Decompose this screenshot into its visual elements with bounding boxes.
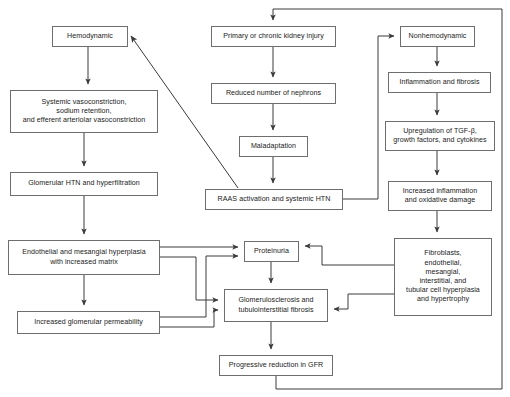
- node-fibroblasts[interactable]: Fibroblasts, endothelial, mesangial, int…: [394, 238, 492, 316]
- node-inflammation-fibrosis[interactable]: Inflammation and fibrosis: [388, 72, 491, 93]
- node-proteinuria[interactable]: Proteinuria: [244, 241, 299, 262]
- node-increased-inflammation-label: Increased inflammation and oxidative dam…: [403, 187, 477, 205]
- node-hemodynamic-label: Hemodynamic: [67, 32, 113, 41]
- node-nonhemodynamic-label: Nonhemodynamic: [409, 32, 467, 41]
- node-maladaptation-label: Maladaptation: [251, 142, 296, 151]
- node-progressive-reduction[interactable]: Progressive reduction in GFR: [219, 355, 333, 376]
- node-hemodynamic[interactable]: Hemodynamic: [52, 26, 128, 47]
- node-proteinuria-label: Proteinuria: [254, 247, 289, 256]
- node-reduced-nephrons[interactable]: Reduced number of nephrons: [211, 83, 336, 104]
- node-primary-injury-label: Primary or chronic kidney injury: [223, 32, 324, 41]
- node-upregulation-tgfb-label: Upregulation of TGF-β, growth factors, a…: [393, 127, 486, 145]
- node-increased-permeability[interactable]: Increased glomerular permeability: [17, 311, 160, 334]
- node-glomerulosclerosis-label: Glomerulosclerosis and tubulointerstitia…: [238, 296, 313, 314]
- node-reduced-nephrons-label: Reduced number of nephrons: [226, 89, 321, 98]
- node-increased-inflammation[interactable]: Increased inflammation and oxidative dam…: [388, 181, 492, 211]
- node-endothelial-hyperplasia-label: Endothelial and mesangial hyperplasia wi…: [22, 248, 145, 266]
- node-primary-injury[interactable]: Primary or chronic kidney injury: [211, 26, 336, 47]
- node-fibroblasts-label: Fibroblasts, endothelial, mesangial, int…: [406, 249, 480, 304]
- node-endothelial-hyperplasia[interactable]: Endothelial and mesangial hyperplasia wi…: [8, 240, 160, 275]
- node-increased-permeability-label: Increased glomerular permeability: [34, 318, 143, 327]
- edge-raas-to-nonhemodynamic: [343, 36, 394, 199]
- node-glomerular-htn[interactable]: Glomerular HTN and hyperfiltration: [10, 172, 158, 196]
- node-progressive-reduction-label: Progressive reduction in GFR: [229, 361, 323, 370]
- flowchart-canvas: Hemodynamic Systemic vasoconstriction, s…: [0, 0, 510, 397]
- node-maladaptation[interactable]: Maladaptation: [239, 136, 308, 157]
- node-nonhemodynamic[interactable]: Nonhemodynamic: [400, 26, 475, 47]
- node-inflammation-fibrosis-label: Inflammation and fibrosis: [399, 78, 479, 87]
- edge-permeability-to-glomerulosclerosis: [160, 310, 218, 327]
- node-raas-activation[interactable]: RAAS activation and systemic HTN: [205, 189, 343, 210]
- edge-endothelial-to-glomerulosclerosis: [160, 257, 218, 300]
- node-upregulation-tgfb[interactable]: Upregulation of TGF-β, growth factors, a…: [385, 121, 495, 151]
- edge-fibroblasts-to-glomerulosclerosis: [334, 294, 394, 309]
- node-glomerulosclerosis[interactable]: Glomerulosclerosis and tubulointerstitia…: [224, 289, 328, 322]
- edge-fibroblasts-to-proteinuria: [305, 246, 394, 265]
- node-systemic-vasoconstriction-label: Systemic vasoconstriction, sodium retent…: [23, 98, 146, 126]
- node-raas-activation-label: RAAS activation and systemic HTN: [218, 195, 331, 204]
- node-glomerular-htn-label: Glomerular HTN and hyperfiltration: [28, 179, 140, 188]
- node-systemic-vasoconstriction[interactable]: Systemic vasoconstriction, sodium retent…: [10, 90, 158, 133]
